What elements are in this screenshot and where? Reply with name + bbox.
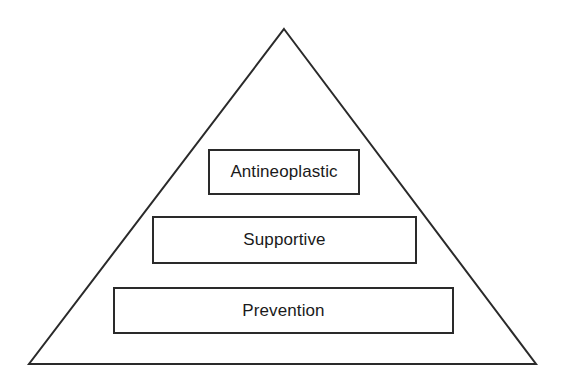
tier-supportive: Supportive	[152, 216, 417, 264]
tier-prevention: Prevention	[113, 287, 454, 334]
tier-label: Prevention	[242, 301, 324, 321]
pyramid-diagram: Antineoplastic Supportive Prevention	[0, 0, 564, 387]
tier-label: Supportive	[243, 230, 325, 250]
tier-label: Antineoplastic	[230, 162, 337, 182]
tier-antineoplastic: Antineoplastic	[208, 149, 360, 195]
